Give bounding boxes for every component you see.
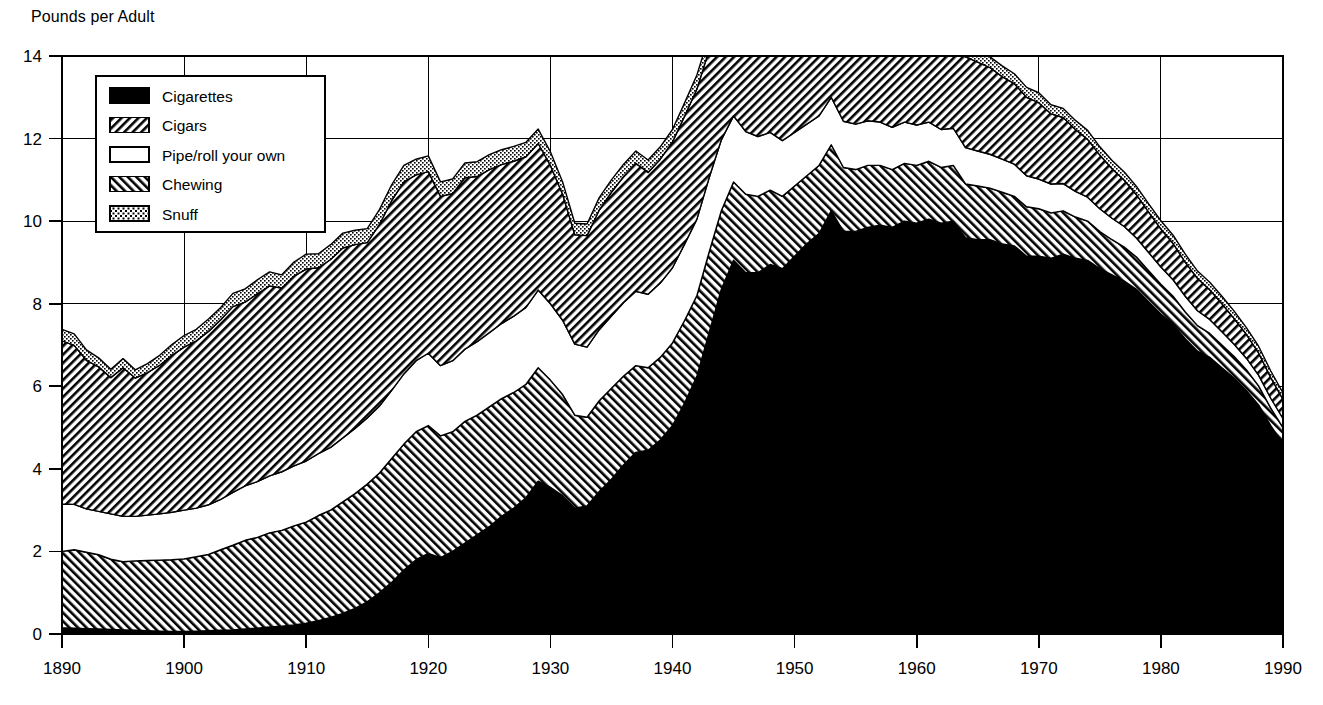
- y-tick-label: 6: [33, 377, 42, 396]
- y-tick-label: 2: [33, 542, 42, 561]
- legend-swatch-chewing: [110, 177, 149, 192]
- x-tick-label: 1950: [776, 659, 814, 678]
- x-tick-label: 1940: [654, 659, 692, 678]
- legend-swatch-snuff: [110, 206, 149, 221]
- y-tick-label: 8: [33, 295, 42, 314]
- legend-label-chewing: Chewing: [162, 176, 222, 193]
- x-tick-label: 1890: [43, 659, 81, 678]
- chart-legend: CigarettesCigarsPipe/roll your ownChewin…: [96, 76, 325, 232]
- legend-swatch-pipe: [110, 147, 149, 162]
- legend-label-pipe: Pipe/roll your own: [162, 147, 285, 164]
- legend-swatch-cigarettes: [110, 88, 149, 103]
- y-tick-label: 14: [23, 47, 42, 66]
- x-tick-label: 1930: [531, 659, 569, 678]
- x-tick-label: 1910: [287, 659, 325, 678]
- x-tick-label: 1900: [165, 659, 203, 678]
- x-tick-label: 1920: [409, 659, 447, 678]
- x-tick-label: 1970: [1020, 659, 1058, 678]
- legend-swatch-cigars: [110, 118, 149, 133]
- y-tick-label: 12: [23, 130, 42, 149]
- y-tick-label: 10: [23, 212, 42, 231]
- legend-label-cigars: Cigars: [162, 117, 207, 134]
- x-axis-tick-labels: 1890190019101920193019401950196019701980…: [43, 659, 1302, 678]
- x-tick-label: 1960: [898, 659, 936, 678]
- y-axis-tick-labels: 02468101214: [23, 47, 42, 644]
- chart-figure: Pounds per Adult: [0, 0, 1323, 705]
- x-tick-label: 1990: [1264, 659, 1302, 678]
- legend-label-snuff: Snuff: [162, 206, 199, 223]
- y-tick-label: 4: [33, 460, 42, 479]
- x-tick-label: 1980: [1142, 659, 1180, 678]
- legend-label-cigarettes: Cigarettes: [162, 88, 233, 105]
- y-tick-label: 0: [33, 625, 42, 644]
- stacked-area-chart: 02468101214 1890190019101920193019401950…: [0, 0, 1323, 705]
